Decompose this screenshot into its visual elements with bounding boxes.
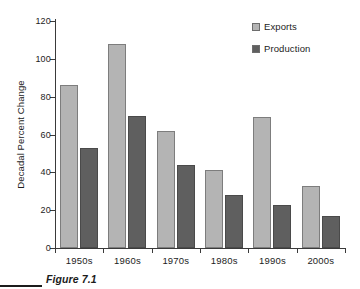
bar-exports-1950s [60, 85, 78, 248]
bar-exports-1960s [108, 44, 126, 248]
x-axis-tick-mark [297, 248, 298, 253]
legend-swatch-icon [252, 45, 260, 53]
legend-item-exports: Exports [252, 21, 310, 32]
bar-group [200, 21, 248, 248]
y-axis-tick-label: 40 [41, 167, 51, 177]
x-axis-label-1960s: 1960s [103, 255, 151, 266]
bar-exports-1990s [253, 117, 271, 248]
y-axis-title: Decadal Percent Change [14, 21, 28, 248]
x-axis-tick-mark [345, 248, 346, 253]
y-axis-tick-label: 80 [41, 92, 51, 102]
bar-exports-2000s [302, 186, 320, 248]
y-axis-tick-label: 0 [46, 243, 51, 253]
x-axis-tick-mark [103, 248, 104, 253]
y-axis-tick-label: 60 [41, 130, 51, 140]
bar-production-1990s [273, 205, 291, 249]
bar-group [55, 21, 103, 248]
x-axis-label-1950s: 1950s [55, 255, 103, 266]
x-axis-tick-mark [248, 248, 249, 253]
y-axis-tick-label: 120 [35, 16, 51, 26]
bar-production-1980s [225, 195, 243, 248]
bar-production-2000s [322, 216, 340, 248]
caption-rule [0, 285, 42, 287]
x-axis-tick-mark [152, 248, 153, 253]
bar-exports-1980s [205, 170, 223, 248]
bar-production-1970s [177, 165, 195, 248]
x-axis-tick-mark [55, 248, 56, 253]
legend-label: Production [264, 43, 310, 54]
x-axis-label-1970s: 1970s [152, 255, 200, 266]
bar-production-1950s [80, 148, 98, 248]
legend-swatch-icon [252, 23, 260, 31]
chart-legend: ExportsProduction [252, 21, 310, 65]
figure-caption: Figure 7.1 [46, 273, 97, 285]
x-axis-tick-mark [200, 248, 201, 253]
figure-container: Decadal Percent Change 020406080100120 1… [0, 0, 360, 289]
bar-group [152, 21, 200, 248]
y-axis-tick-label: 20 [41, 205, 51, 215]
x-axis-label-1980s: 1980s [200, 255, 248, 266]
bar-production-1960s [128, 116, 146, 248]
y-axis-tick-label: 100 [35, 54, 51, 64]
x-axis-label-1990s: 1990s [248, 255, 296, 266]
legend-label: Exports [264, 21, 297, 32]
legend-item-production: Production [252, 43, 310, 54]
bar-group [103, 21, 151, 248]
x-axis-label-2000s: 2000s [297, 255, 345, 266]
bar-exports-1970s [157, 131, 175, 248]
